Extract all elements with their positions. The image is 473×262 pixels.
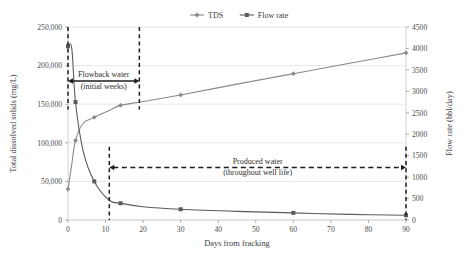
x-axis-tick-label: 80 (365, 225, 373, 234)
y-axis-right-tick-label: 1500 (412, 151, 427, 160)
y-axis-right-tick-label: 0 (412, 216, 416, 225)
y-axis-right-tick-label: 2500 (412, 109, 427, 118)
legend-label-tds: TDS (208, 11, 223, 20)
y-axis-left-tick-label: 200,000 (37, 61, 62, 70)
y-axis-right-tick-label: 4000 (412, 44, 427, 53)
x-axis-tick-label: 10 (102, 225, 110, 234)
x-axis-tick-label: 20 (139, 225, 147, 234)
x-axis-tick-label: 0 (66, 225, 70, 234)
x-axis-tick-label: 60 (290, 225, 298, 234)
x-axis-tick-label: 30 (177, 225, 185, 234)
y-axis-right-tick-label: 1000 (412, 173, 427, 182)
data-point-flow-rate (179, 207, 183, 211)
data-point-flow-rate (119, 201, 123, 205)
y-axis-right-tick-label: 2000 (412, 130, 427, 139)
y-axis-right-tick-label: 3000 (412, 87, 427, 96)
data-point-tds (404, 50, 409, 55)
data-point-flow-rate (74, 100, 78, 104)
legend-marker-tds (195, 13, 200, 18)
y-axis-left-tick-label: 50,000 (41, 177, 62, 186)
y-axis-right-title: Flow rate (bbl/day) (445, 91, 454, 156)
data-point-tds (66, 187, 71, 192)
y-axis-left-title: Total dissolved solids (mg/L) (9, 74, 18, 172)
y-axis-left-tick-label: 250,000 (37, 23, 62, 32)
y-axis-right-tick-label: 4500 (412, 23, 427, 32)
y-axis-left-tick-label: 100,000 (37, 139, 62, 148)
y-axis-left-tick-label: 150,000 (37, 100, 62, 109)
data-point-tds (92, 115, 97, 120)
y-axis-left-tick-label: 0 (58, 216, 62, 225)
annotation-flowback-water-line2: (initial weeks) (81, 82, 127, 91)
data-point-tds (178, 93, 183, 98)
y-axis-right-tick-label: 3500 (412, 66, 427, 75)
annotation-flowback-water-line1: Flowback water (78, 70, 130, 79)
x-axis-tick-label: 40 (214, 225, 222, 234)
data-point-tds (118, 103, 123, 108)
x-axis-tick-label: 90 (402, 225, 410, 234)
legend-marker-flow-rate (245, 13, 249, 17)
chart-container: 050,000100,000150,000200,000250,00005001… (0, 0, 473, 262)
y-axis-right-tick-label: 500 (412, 194, 424, 203)
data-point-tds (291, 71, 296, 76)
data-point-tds (73, 138, 78, 143)
tds-flowrate-dual-axis-chart: 050,000100,000150,000200,000250,00005001… (0, 0, 473, 262)
x-axis-tick-label: 70 (327, 225, 335, 234)
annotation-produced-water-line2: (throughout well life) (223, 168, 292, 177)
x-axis-tick-label: 50 (252, 225, 260, 234)
data-point-flow-rate (291, 211, 295, 215)
annotation-produced-water-line1: Produced water (233, 157, 283, 166)
x-axis-title: Days from fracking (204, 239, 270, 248)
legend-label-flow-rate: Flow rate (258, 11, 289, 20)
data-point-flow-rate (92, 179, 96, 183)
